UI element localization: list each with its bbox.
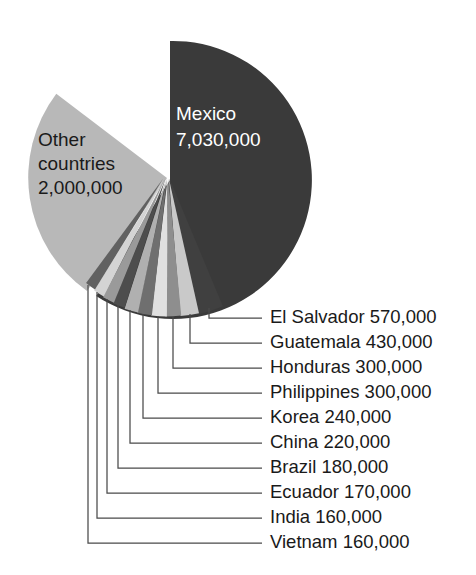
- callout-label-brazil[interactable]: Brazil 180,000: [270, 456, 388, 477]
- other-countries-label-line2: countries: [38, 153, 115, 174]
- callout-label-guatemala[interactable]: Guatemala 430,000: [270, 331, 433, 352]
- mexico-label-value: 7,030,000: [176, 129, 261, 150]
- other-countries-label-value: 2,000,000: [38, 177, 123, 198]
- callout-label-el-salvador[interactable]: El Salvador 570,000: [270, 306, 437, 327]
- callout-label-philippines[interactable]: Philippines 300,000: [270, 381, 432, 402]
- pie-chart-figure: Mexico 7,030,000 Other countries 2,000,0…: [0, 0, 476, 575]
- callout-label-india[interactable]: India 160,000: [270, 506, 382, 527]
- callout-label-china[interactable]: China 220,000: [270, 431, 390, 452]
- other-countries-label-line1: Other: [38, 129, 86, 150]
- callout-label-vietnam[interactable]: Vietnam 160,000: [270, 531, 410, 552]
- callout-label-honduras[interactable]: Honduras 300,000: [270, 356, 422, 377]
- callout-label-korea[interactable]: Korea 240,000: [270, 406, 391, 427]
- callout-label-ecuador[interactable]: Ecuador 170,000: [270, 481, 411, 502]
- pie-chart-svg: Mexico 7,030,000 Other countries 2,000,0…: [0, 0, 476, 575]
- mexico-label-name: Mexico: [176, 103, 236, 124]
